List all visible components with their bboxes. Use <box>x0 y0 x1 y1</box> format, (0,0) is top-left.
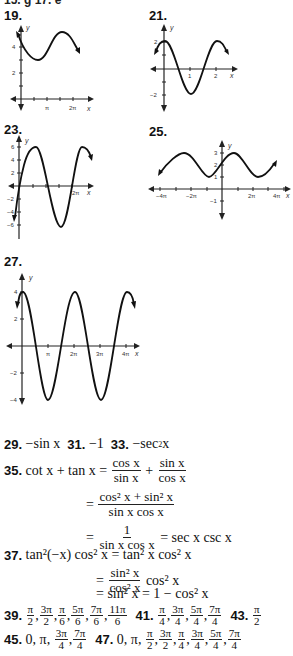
graph-27-label: 27. <box>4 254 22 269</box>
svg-text:y: y <box>24 137 29 145</box>
svg-text:π: π <box>46 351 50 357</box>
svg-text:π: π <box>45 105 49 111</box>
svg-text:2: 2 <box>214 73 218 79</box>
svg-text:2: 2 <box>214 162 218 168</box>
graph-21: 1 2 2 −2 y x <box>148 22 268 112</box>
svg-text:x: x <box>229 72 234 79</box>
answer-line-29-33: 29. −sin x 31. −1 33. −sec2 x <box>4 436 169 452</box>
svg-text:4: 4 <box>14 289 18 295</box>
answer-37-line3: = sin² x = 1 − cos² x <box>96 586 209 602</box>
graph-19: π 2π 4 2 y x <box>4 22 124 112</box>
svg-text:2: 2 <box>12 70 16 76</box>
svg-text:−2: −2 <box>150 92 158 98</box>
svg-text:x: x <box>86 189 91 196</box>
graph-23: 2π 6 4 2 −2 −4 −6 y x <box>4 135 124 240</box>
svg-text:1: 1 <box>188 73 192 79</box>
svg-text:3: 3 <box>214 150 218 156</box>
svg-text:4: 4 <box>12 44 16 50</box>
svg-text:4π: 4π <box>122 351 129 357</box>
svg-text:−4: −4 <box>7 209 15 215</box>
svg-text:2: 2 <box>154 39 158 45</box>
svg-text:2π: 2π <box>70 351 77 357</box>
svg-text:2π: 2π <box>69 105 76 111</box>
svg-text:−4π: −4π <box>156 193 167 199</box>
svg-text:2: 2 <box>14 316 18 322</box>
answer-35-line2: = cos² x + sin² xsin x cos x <box>86 490 175 519</box>
svg-text:2: 2 <box>11 170 15 176</box>
svg-text:−1: −1 <box>210 198 218 204</box>
svg-text:−2: −2 <box>7 196 15 202</box>
graph-25-label: 25. <box>149 124 167 139</box>
graph-21-label: 21. <box>149 8 167 23</box>
answer-line-39-43: 39. π2, 3π2, π6, 5π6, 7π6, 11π6 41. π4, … <box>4 604 262 627</box>
svg-text:y: y <box>28 274 33 282</box>
svg-text:4π: 4π <box>273 193 280 199</box>
svg-text:2π: 2π <box>72 190 79 196</box>
svg-text:y: y <box>25 24 30 32</box>
graph-27: π 2π 3π 4π 4 2 −2 −4 y x <box>4 270 144 410</box>
graph-19-label: 19. <box>4 8 22 23</box>
svg-text:y: y <box>169 24 174 32</box>
answer-37-line1: 37. tan²(−x) cos² x = tan² x cos² x <box>4 547 192 563</box>
svg-text:x: x <box>134 350 139 357</box>
svg-text:−6: −6 <box>7 222 15 228</box>
svg-text:2π: 2π <box>248 193 255 199</box>
svg-text:y: y <box>227 142 232 150</box>
svg-text:1: 1 <box>214 174 218 180</box>
svg-text:−2: −2 <box>10 370 18 376</box>
svg-text:6: 6 <box>11 144 15 150</box>
svg-text:−4: −4 <box>10 397 18 403</box>
cut-off-header: 15. g 17. e <box>4 0 61 7</box>
svg-text:4: 4 <box>11 157 15 163</box>
svg-text:x: x <box>285 192 290 199</box>
svg-text:−2π: −2π <box>186 193 197 199</box>
answer-35-line1: 35. cot x + tan x = cos xsin x + sin xco… <box>4 456 188 485</box>
answer-line-45-47: 45. 0, π, 3π4, 7π4 47. 0, π, π2, 3π2, π4… <box>4 628 242 651</box>
svg-text:x: x <box>86 105 91 112</box>
graph-25: −4π −2π 2π 4π 3 2 1 −1 y x <box>146 140 293 225</box>
svg-text:3π: 3π <box>96 351 103 357</box>
